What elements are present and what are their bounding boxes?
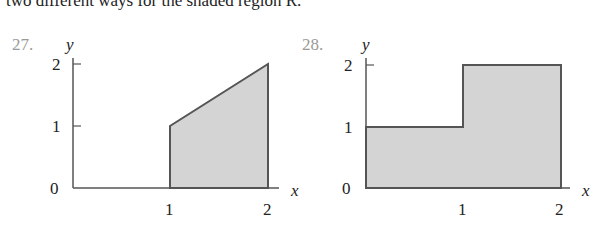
x-axis-label: x bbox=[581, 181, 590, 200]
problem-label-28: 28. bbox=[302, 35, 323, 54]
shaded-region-28 bbox=[366, 65, 561, 188]
x-tick-label-2: 2 bbox=[263, 200, 272, 219]
figure-canvas: 27. y 2 1 0 1 2 x 28. y 2 1 0 1 2 x bbox=[0, 0, 604, 231]
y-tick-label-2: 2 bbox=[344, 56, 353, 75]
y-tick-label-0: 0 bbox=[50, 179, 59, 198]
chart-28: 28. y 2 1 0 1 2 x bbox=[302, 35, 590, 219]
y-tick-label-1: 1 bbox=[52, 117, 61, 136]
problem-label-27: 27. bbox=[12, 35, 33, 54]
shaded-region-27 bbox=[170, 64, 268, 188]
x-tick-label-2: 2 bbox=[555, 200, 564, 219]
x-axis-label: x bbox=[290, 181, 299, 200]
y-axis-label: y bbox=[360, 35, 370, 54]
chart-27: 27. y 2 1 0 1 2 x bbox=[12, 35, 299, 219]
x-tick-label-1: 1 bbox=[458, 200, 467, 219]
y-axis-label: y bbox=[64, 35, 74, 54]
x-tick-label-1: 1 bbox=[165, 200, 174, 219]
y-tick-label-2: 2 bbox=[52, 55, 61, 74]
y-tick-label-0: 0 bbox=[342, 179, 351, 198]
y-tick-label-1: 1 bbox=[344, 118, 353, 137]
